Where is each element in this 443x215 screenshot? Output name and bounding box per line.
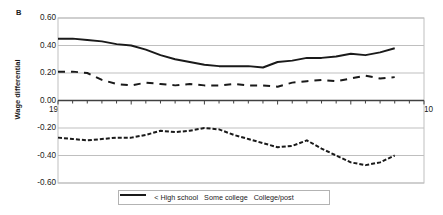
legend-label-college-post: College/post	[254, 193, 294, 202]
legend-item-college-post: College/post	[254, 193, 294, 202]
legend-label-some-college: Some college	[204, 193, 248, 202]
plot-area	[0, 0, 443, 215]
chart-legend: < High school Some college College/post	[118, 190, 330, 205]
legend-item-some-college: Some college	[204, 193, 248, 202]
legend-item-lt-high-school: < High school	[154, 193, 198, 202]
legend-swatch-solid-icon	[119, 191, 147, 199]
chart-figure: B Wage differential 0.600.400.200.00-0.2…	[0, 0, 443, 215]
legend-label-lt-high-school: < High school	[154, 193, 198, 202]
